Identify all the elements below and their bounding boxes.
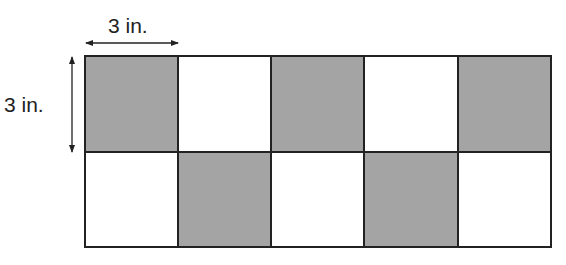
grid-cell-shaded	[178, 152, 271, 247]
grid-cell-shaded	[364, 152, 458, 247]
grid-cell-shaded	[271, 56, 364, 152]
grid-cell-shaded	[85, 56, 178, 152]
grid-cell-white	[271, 152, 364, 247]
grid-cell-shaded	[458, 56, 551, 152]
grid-cell-white	[364, 56, 458, 152]
grid-cell-white	[458, 152, 551, 247]
grid-cell-white	[85, 152, 178, 247]
checkerboard-rectangle-diagram	[0, 0, 566, 265]
grid-cell-white	[178, 56, 271, 152]
